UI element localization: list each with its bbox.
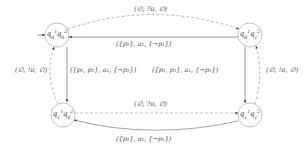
edge-label-bottom-line: (∅, ?π, ∅) xyxy=(134,101,167,108)
edge-label-right-line: ({p₁, p₂}, a₁, {¬p₂}) xyxy=(152,67,218,74)
state-label-q1q0: q11q02 xyxy=(50,110,76,120)
edge-label-right-dashed: (∅, !π, ∅) xyxy=(266,67,298,74)
state-label-q0q1: q01q12 xyxy=(237,30,263,40)
edge-label-left-line: ({p₁, p₂}, a₁, {¬p₂}) xyxy=(70,67,136,74)
state-label-q0q0: q01q02 xyxy=(44,30,70,40)
edge-label-left-dashed: (∅, !π, ∅) xyxy=(15,67,47,74)
edge-bottom-arc xyxy=(74,120,238,130)
edge-top-arc xyxy=(68,15,239,30)
state-label-q1q1: q11q12 xyxy=(237,110,263,120)
edge-label-top-arc: (∅, ?π, ∅) xyxy=(134,6,167,13)
edge-right-dashed xyxy=(255,46,260,104)
diagram-canvas xyxy=(0,0,303,156)
edge-label-bottom-arc: ({p₂}, a₂, {¬p₁}) xyxy=(116,136,171,143)
edge-label-top-line: ({p₂}, a₂, {¬p₁}) xyxy=(116,41,171,48)
edge-left-dashed xyxy=(50,47,58,104)
